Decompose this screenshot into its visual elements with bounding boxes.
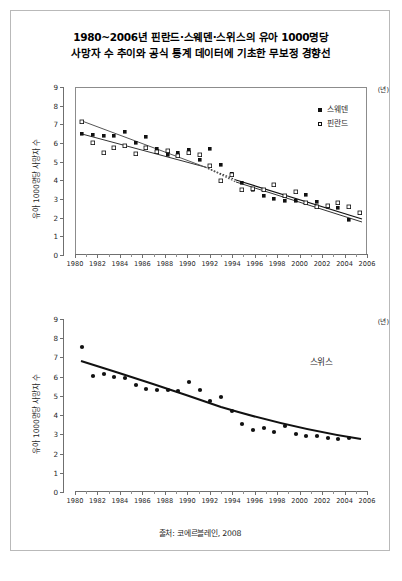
x-tick-label: 1992 — [201, 497, 218, 505]
legend-item-sweden: 스웨덴 — [318, 104, 348, 116]
figure-page: 1980~2006년 핀란드·스웨덴·스위스의 유아 1000명당 사망자 수 … — [10, 10, 390, 551]
chart-bottom-svg — [75, 319, 367, 492]
x-tick — [232, 254, 233, 258]
x-tick-label: 1986 — [134, 497, 151, 505]
x-tick — [345, 254, 346, 258]
title-line-2: 사망자 수 추이와 공식 통계 데이터에 기초한 무보정 경향선 — [31, 45, 371, 61]
y-tick-label: 4 — [36, 176, 58, 185]
y-tick — [60, 162, 64, 163]
x-tick — [232, 491, 233, 495]
x-tick — [322, 254, 323, 258]
x-tick-label: 2000 — [291, 260, 308, 268]
y-tick — [60, 255, 64, 256]
x-tick — [300, 254, 301, 258]
x-tick-label: 2006 — [359, 260, 376, 268]
x-tick — [165, 491, 166, 495]
x-tick — [277, 491, 278, 495]
x-tick-label: 2004 — [336, 260, 353, 268]
x-tick-label: 1990 — [179, 497, 196, 505]
open-square-icon — [318, 122, 322, 126]
x-tick — [97, 491, 98, 495]
y-tick-label: 7 — [36, 353, 58, 362]
x-minor-tick — [86, 491, 87, 494]
x-tick — [345, 491, 346, 495]
x-tick — [322, 491, 323, 495]
chart-top-x-unit: (년) — [378, 84, 389, 94]
y-tick-label: 4 — [36, 411, 58, 420]
chart-top-nordic: 유아 1000명당 사망자 수 0123456789 — [33, 79, 373, 279]
y-tick — [60, 319, 64, 320]
y-tick-label: 0 — [36, 251, 58, 260]
x-minor-tick — [154, 254, 155, 257]
x-tick — [97, 254, 98, 258]
x-minor-tick — [356, 254, 357, 257]
x-tick-label: 1988 — [156, 497, 173, 505]
x-minor-tick — [176, 254, 177, 257]
x-minor-tick — [266, 254, 267, 257]
x-tick-label: 2002 — [314, 260, 331, 268]
y-tick — [60, 180, 64, 181]
x-tick — [75, 491, 76, 495]
y-tick-label: 9 — [36, 83, 58, 92]
x-minor-tick — [131, 254, 132, 257]
y-tick-label: 9 — [36, 315, 58, 324]
x-tick-label: 2002 — [314, 497, 331, 505]
y-tick — [60, 143, 64, 144]
x-tick-label: 1996 — [246, 497, 263, 505]
title-line-1: 1980~2006년 핀란드·스웨덴·스위스의 유아 1000명당 — [31, 29, 371, 45]
x-tick-label: 1994 — [224, 260, 241, 268]
x-minor-tick — [266, 491, 267, 494]
x-tick-label: 1992 — [201, 260, 218, 268]
trendline-switzerland — [81, 361, 361, 439]
x-tick-label: 1982 — [89, 497, 106, 505]
x-tick — [142, 491, 143, 495]
trendline-sweden-solid-late — [236, 180, 362, 219]
x-tick — [187, 254, 188, 258]
x-tick — [75, 254, 76, 258]
x-tick-label: 1996 — [246, 260, 263, 268]
x-tick-label: 1988 — [156, 260, 173, 268]
x-minor-tick — [221, 491, 222, 494]
x-tick-label: 1990 — [179, 260, 196, 268]
y-tick-label: 2 — [36, 213, 58, 222]
y-tick-label: 3 — [36, 195, 58, 204]
x-minor-tick — [109, 491, 110, 494]
x-tick — [210, 254, 211, 258]
series-label-switzerland: 스위스 — [310, 355, 333, 367]
chart-top-y-axis: 0123456789 — [63, 87, 64, 255]
y-tick — [60, 218, 64, 219]
chart-bottom-y-axis: 0123456789 — [63, 319, 64, 492]
x-minor-tick — [288, 491, 289, 494]
y-tick — [60, 124, 64, 125]
x-tick — [165, 254, 166, 258]
x-tick-label: 1984 — [112, 497, 129, 505]
source-note: 출처: 코에르블레인, 2008 — [11, 527, 389, 538]
x-tick — [120, 491, 121, 495]
x-tick — [210, 491, 211, 495]
x-tick — [277, 254, 278, 258]
y-tick-label: 6 — [36, 139, 58, 148]
y-tick-label: 5 — [36, 157, 58, 166]
chart-bottom-plot-area: 스위스 — [75, 319, 367, 492]
y-tick-label: 7 — [36, 120, 58, 129]
x-tick — [142, 254, 143, 258]
y-tick-label: 0 — [36, 488, 58, 497]
legend-item-finland: 핀란드 — [318, 118, 348, 130]
x-minor-tick — [356, 491, 357, 494]
x-minor-tick — [311, 254, 312, 257]
x-tick-label: 1984 — [112, 260, 129, 268]
x-tick-label: 1994 — [224, 497, 241, 505]
y-tick-label: 6 — [36, 372, 58, 381]
y-tick-label: 8 — [36, 101, 58, 110]
y-tick-label: 8 — [36, 334, 58, 343]
y-tick-label: 1 — [36, 232, 58, 241]
x-minor-tick — [176, 491, 177, 494]
x-tick — [187, 491, 188, 495]
x-minor-tick — [131, 491, 132, 494]
y-tick-label: 5 — [36, 391, 58, 400]
y-tick — [60, 87, 64, 88]
y-tick — [60, 492, 64, 493]
x-tick — [255, 254, 256, 258]
x-minor-tick — [109, 254, 110, 257]
y-tick — [60, 434, 64, 435]
